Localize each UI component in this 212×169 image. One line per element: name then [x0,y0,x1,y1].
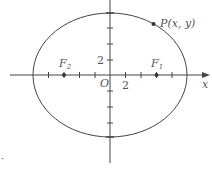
point-p [152,22,156,26]
y-tick-label-2: 2 [97,54,104,67]
focus-f1-label: F1 [150,57,163,71]
ellipse-diagram: P(x, y) F2 F1 2 2 O x . [0,0,212,169]
origin-label: O [100,77,109,90]
point-p-label: P(x, y) [159,17,195,30]
x-axis-label: x [202,78,209,91]
focus-f1-point [155,73,159,77]
focus-f2-point [62,73,66,77]
x-tick-label-2: 2 [122,79,129,92]
focus-f2-label: F2 [58,57,72,71]
corner-mark: . [1,150,4,161]
